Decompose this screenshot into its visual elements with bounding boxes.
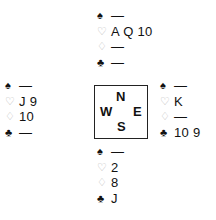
south-spades: —	[111, 144, 124, 160]
east-hearts: K	[174, 94, 183, 110]
compass-north: N	[116, 89, 125, 104]
spade-icon: ♠	[97, 8, 111, 24]
west-clubs-row: ♣ —	[5, 125, 37, 141]
club-icon: ♣	[97, 191, 111, 207]
south-hearts-row: ♡ 2	[97, 160, 124, 176]
compass-east: E	[133, 104, 142, 119]
west-diamonds-row: ♢ 10	[5, 109, 37, 125]
compass-west: W	[100, 104, 112, 119]
south-diamonds-row: ♢ 8	[97, 175, 124, 191]
west-spades-row: ♠ —	[5, 78, 37, 94]
south-clubs: J	[111, 191, 118, 207]
heart-icon: ♡	[97, 160, 111, 176]
spade-icon: ♠	[5, 78, 19, 94]
west-hearts-row: ♡ J 9	[5, 94, 37, 110]
club-icon: ♣	[5, 125, 19, 141]
diamond-icon: ♢	[97, 39, 111, 55]
south-spades-row: ♠ —	[97, 144, 124, 160]
south-diamonds: 8	[111, 175, 119, 191]
west-hearts: J 9	[19, 94, 37, 110]
north-diamonds: —	[111, 39, 124, 55]
diamond-icon: ♢	[5, 109, 19, 125]
north-hearts: A Q 10	[111, 24, 153, 40]
north-spades: —	[111, 8, 124, 24]
south-hearts: 2	[111, 160, 119, 176]
east-diamonds: —	[174, 109, 187, 125]
north-clubs-row: ♣ —	[97, 55, 153, 71]
club-icon: ♣	[97, 55, 111, 71]
compass-south: S	[117, 119, 126, 134]
south-hand: ♠ — ♡ 2 ♢ 8 ♣ J	[97, 144, 124, 206]
diamond-icon: ♢	[160, 109, 174, 125]
heart-icon: ♡	[5, 94, 19, 110]
north-diamonds-row: ♢ —	[97, 39, 153, 55]
west-diamonds: 10	[19, 109, 34, 125]
north-spades-row: ♠ —	[97, 8, 153, 24]
north-clubs: —	[111, 55, 124, 71]
spade-icon: ♠	[160, 78, 174, 94]
heart-icon: ♡	[160, 94, 174, 110]
north-hand: ♠ — ♡ A Q 10 ♢ — ♣ —	[97, 8, 153, 70]
west-clubs: —	[19, 125, 32, 141]
east-clubs-row: ♣ 10 9	[160, 125, 201, 141]
east-clubs: 10 9	[174, 125, 201, 141]
east-hearts-row: ♡ K	[160, 94, 201, 110]
north-hearts-row: ♡ A Q 10	[97, 24, 153, 40]
spade-icon: ♠	[97, 144, 111, 160]
east-hand: ♠ — ♡ K ♢ — ♣ 10 9	[160, 78, 201, 140]
club-icon: ♣	[160, 125, 174, 141]
heart-icon: ♡	[97, 24, 111, 40]
east-spades-row: ♠ —	[160, 78, 201, 94]
west-hand: ♠ — ♡ J 9 ♢ 10 ♣ —	[5, 78, 37, 140]
south-clubs-row: ♣ J	[97, 191, 124, 207]
diamond-icon: ♢	[97, 175, 111, 191]
east-diamonds-row: ♢ —	[160, 109, 201, 125]
west-spades: —	[19, 78, 32, 94]
east-spades: —	[174, 78, 187, 94]
compass-box: N W E S	[94, 85, 148, 139]
